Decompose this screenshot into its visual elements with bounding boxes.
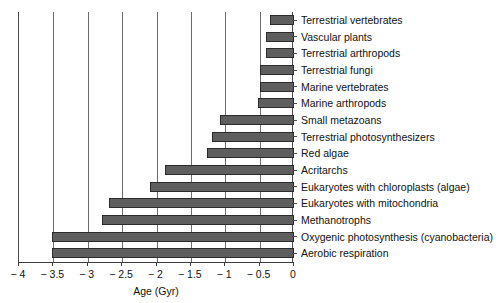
x-tick — [52, 262, 53, 266]
category-label: Terrestrial photosynthesizers — [301, 129, 435, 146]
category-label: Vascular plants — [301, 29, 372, 46]
row-tick — [292, 70, 297, 71]
x-tick — [224, 262, 225, 266]
category-label: Terrestrial arthropods — [301, 45, 400, 62]
x-tick — [190, 262, 191, 266]
bar — [165, 165, 294, 175]
x-tick-label: − 2.5 — [109, 268, 133, 280]
bar-row — [19, 79, 292, 96]
bar — [220, 115, 294, 125]
category-label: Eukaryotes with chloroplasts (algae) — [301, 179, 470, 196]
category-label: Aerobic respiration — [301, 245, 389, 262]
bar — [52, 248, 294, 258]
bar — [266, 48, 294, 58]
row-tick — [292, 186, 297, 187]
bar-row — [19, 129, 292, 146]
row-tick — [292, 86, 297, 87]
category-label: Methanotrophs — [301, 212, 371, 229]
x-tick — [121, 262, 122, 266]
bar-row — [19, 29, 292, 46]
row-tick — [292, 36, 297, 37]
bar — [102, 215, 295, 225]
age-gyr-bar-chart: Terrestrial vertebratesVascular plantsTe… — [0, 0, 499, 303]
x-tick-label: − 0.5 — [247, 268, 271, 280]
bar-rows — [19, 12, 292, 262]
bar — [260, 82, 294, 92]
row-tick — [292, 136, 297, 137]
row-tick — [292, 220, 297, 221]
row-tick — [292, 53, 297, 54]
bar — [260, 65, 294, 75]
row-tick — [292, 20, 297, 21]
x-tick-label: − 3 — [79, 268, 94, 280]
x-tick — [259, 262, 260, 266]
category-label: Red algae — [301, 145, 349, 162]
x-tick — [87, 262, 88, 266]
bar-row — [19, 95, 292, 112]
category-labels: Terrestrial vertebratesVascular plantsTe… — [301, 12, 499, 262]
bar-row — [19, 162, 292, 179]
row-tick — [292, 170, 297, 171]
x-tick — [156, 262, 157, 266]
x-tick — [293, 262, 294, 266]
x-tick-label: 0 — [290, 268, 296, 280]
category-label: Small metazoans — [301, 112, 382, 129]
x-axis-title: Age (Gyr) — [18, 285, 294, 297]
row-tick — [292, 120, 297, 121]
x-tick — [18, 262, 19, 266]
plot-area — [18, 12, 293, 262]
bar — [207, 148, 294, 158]
row-tick — [292, 203, 297, 204]
category-label: Eukaryotes with mitochondria — [301, 195, 438, 212]
category-label: Acritarchs — [301, 162, 348, 179]
x-tick-label: − 1 — [217, 268, 232, 280]
x-tick-label: − 4 — [11, 268, 26, 280]
x-tick-label: − 3.5 — [41, 268, 65, 280]
bar-row — [19, 145, 292, 162]
category-label: Marine vertebrates — [301, 79, 389, 96]
category-label: Oxygenic photosynthesis (cyanobacteria) — [301, 229, 493, 246]
bar-row — [19, 45, 292, 62]
bar — [52, 232, 294, 242]
row-tick — [292, 103, 297, 104]
bar — [150, 182, 294, 192]
bar — [258, 98, 294, 108]
bar-row — [19, 245, 292, 262]
row-tick — [292, 153, 297, 154]
bar-row — [19, 62, 292, 79]
bar — [266, 32, 294, 42]
x-tick-label: − 1.5 — [178, 268, 202, 280]
row-tick — [292, 236, 297, 237]
category-label: Marine arthropods — [301, 95, 386, 112]
bar-row — [19, 195, 292, 212]
bar-row — [19, 112, 292, 129]
category-label: Terrestrial vertebrates — [301, 12, 403, 29]
bar-row — [19, 212, 292, 229]
bar — [212, 132, 295, 142]
category-label: Terrestrial fungi — [301, 62, 373, 79]
bar-row — [19, 179, 292, 196]
x-tick-label: − 2 — [148, 268, 163, 280]
bar — [109, 198, 294, 208]
bar-row — [19, 12, 292, 29]
bar-row — [19, 229, 292, 246]
row-tick — [292, 253, 297, 254]
bar — [270, 15, 294, 25]
